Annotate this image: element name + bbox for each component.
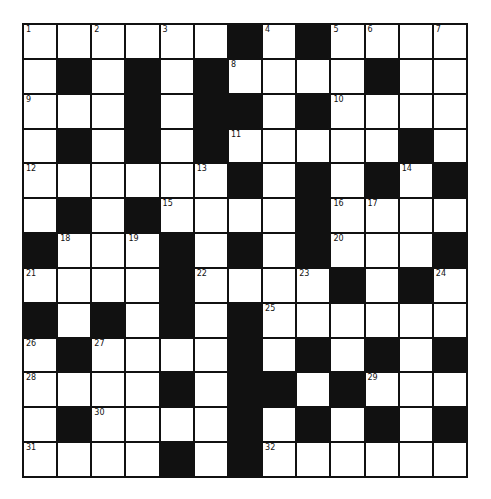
answer-cell[interactable]	[195, 199, 227, 232]
answer-cell[interactable]: 4	[263, 25, 295, 58]
answer-cell[interactable]	[161, 130, 193, 163]
answer-cell[interactable]: 30	[92, 408, 124, 441]
answer-cell[interactable]: 32	[263, 443, 295, 476]
answer-cell[interactable]	[366, 304, 398, 337]
answer-cell[interactable]	[297, 130, 329, 163]
answer-cell[interactable]: 6	[366, 25, 398, 58]
answer-cell[interactable]	[263, 199, 295, 232]
answer-cell[interactable]	[92, 373, 124, 406]
answer-cell[interactable]	[92, 443, 124, 476]
answer-cell[interactable]	[58, 443, 90, 476]
answer-cell[interactable]	[195, 373, 227, 406]
answer-cell[interactable]: 23	[297, 269, 329, 302]
answer-cell[interactable]: 3	[161, 25, 193, 58]
answer-cell[interactable]	[92, 269, 124, 302]
answer-cell[interactable]: 14	[400, 164, 432, 197]
answer-cell[interactable]	[24, 130, 56, 163]
answer-cell[interactable]	[195, 443, 227, 476]
answer-cell[interactable]	[400, 199, 432, 232]
answer-cell[interactable]: 31	[24, 443, 56, 476]
answer-cell[interactable]	[92, 130, 124, 163]
answer-cell[interactable]	[297, 60, 329, 93]
answer-cell[interactable]	[126, 304, 158, 337]
answer-cell[interactable]	[331, 130, 363, 163]
answer-cell[interactable]	[195, 304, 227, 337]
answer-cell[interactable]	[58, 304, 90, 337]
answer-cell[interactable]	[263, 408, 295, 441]
answer-cell[interactable]	[92, 95, 124, 128]
answer-cell[interactable]	[24, 199, 56, 232]
answer-cell[interactable]	[161, 339, 193, 372]
answer-cell[interactable]: 28	[24, 373, 56, 406]
answer-cell[interactable]	[195, 234, 227, 267]
answer-cell[interactable]	[400, 25, 432, 58]
answer-cell[interactable]	[400, 304, 432, 337]
answer-cell[interactable]: 10	[331, 95, 363, 128]
answer-cell[interactable]	[58, 373, 90, 406]
answer-cell[interactable]	[263, 339, 295, 372]
answer-cell[interactable]	[92, 164, 124, 197]
answer-cell[interactable]	[434, 304, 466, 337]
answer-cell[interactable]	[297, 373, 329, 406]
answer-cell[interactable]	[331, 60, 363, 93]
answer-cell[interactable]	[126, 269, 158, 302]
answer-cell[interactable]	[161, 60, 193, 93]
answer-cell[interactable]	[366, 130, 398, 163]
answer-cell[interactable]	[58, 164, 90, 197]
answer-cell[interactable]	[434, 60, 466, 93]
answer-cell[interactable]: 20	[331, 234, 363, 267]
answer-cell[interactable]	[92, 234, 124, 267]
answer-cell[interactable]	[24, 408, 56, 441]
answer-cell[interactable]	[400, 408, 432, 441]
answer-cell[interactable]: 5	[331, 25, 363, 58]
answer-cell[interactable]	[366, 234, 398, 267]
answer-cell[interactable]	[263, 164, 295, 197]
answer-cell[interactable]	[161, 408, 193, 441]
answer-cell[interactable]	[58, 269, 90, 302]
answer-cell[interactable]	[92, 60, 124, 93]
answer-cell[interactable]: 9	[24, 95, 56, 128]
answer-cell[interactable]	[331, 164, 363, 197]
answer-cell[interactable]	[126, 25, 158, 58]
answer-cell[interactable]	[434, 443, 466, 476]
answer-cell[interactable]: 16	[331, 199, 363, 232]
answer-cell[interactable]	[331, 443, 363, 476]
answer-cell[interactable]	[400, 373, 432, 406]
answer-cell[interactable]	[92, 199, 124, 232]
answer-cell[interactable]	[24, 60, 56, 93]
answer-cell[interactable]	[161, 164, 193, 197]
answer-cell[interactable]	[331, 408, 363, 441]
answer-cell[interactable]	[434, 130, 466, 163]
answer-cell[interactable]	[126, 164, 158, 197]
answer-cell[interactable]	[195, 408, 227, 441]
answer-cell[interactable]	[195, 25, 227, 58]
answer-cell[interactable]	[400, 234, 432, 267]
answer-cell[interactable]: 22	[195, 269, 227, 302]
answer-cell[interactable]: 8	[229, 60, 261, 93]
answer-cell[interactable]	[263, 60, 295, 93]
answer-cell[interactable]	[400, 443, 432, 476]
answer-cell[interactable]: 26	[24, 339, 56, 372]
answer-cell[interactable]: 18	[58, 234, 90, 267]
answer-cell[interactable]: 21	[24, 269, 56, 302]
answer-cell[interactable]	[161, 95, 193, 128]
answer-cell[interactable]	[126, 373, 158, 406]
answer-cell[interactable]	[331, 339, 363, 372]
answer-cell[interactable]: 15	[161, 199, 193, 232]
answer-cell[interactable]	[58, 25, 90, 58]
answer-cell[interactable]	[229, 269, 261, 302]
answer-cell[interactable]	[263, 234, 295, 267]
answer-cell[interactable]: 13	[195, 164, 227, 197]
answer-cell[interactable]	[126, 339, 158, 372]
answer-cell[interactable]	[331, 304, 363, 337]
answer-cell[interactable]	[263, 130, 295, 163]
answer-cell[interactable]	[434, 95, 466, 128]
answer-cell[interactable]	[366, 95, 398, 128]
answer-cell[interactable]	[297, 304, 329, 337]
answer-cell[interactable]: 19	[126, 234, 158, 267]
answer-cell[interactable]: 2	[92, 25, 124, 58]
answer-cell[interactable]	[366, 269, 398, 302]
answer-cell[interactable]	[434, 199, 466, 232]
answer-cell[interactable]	[366, 443, 398, 476]
answer-cell[interactable]: 24	[434, 269, 466, 302]
